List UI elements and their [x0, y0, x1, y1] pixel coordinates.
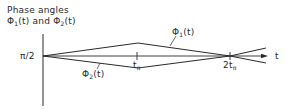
title-line2: Φ1(t) and Φ2(t): [7, 16, 76, 29]
t-axis-arrowhead: [261, 54, 268, 58]
curve1-label: Φ1(t): [172, 27, 194, 40]
tick2-label: 2tπ: [223, 60, 236, 73]
title-line1: Phase angles: [7, 5, 69, 15]
t-axis-label: t: [275, 51, 279, 61]
y-tick-label-pi-over-2: π/2: [20, 51, 35, 61]
tick1-label: tπ: [133, 60, 141, 73]
curve2-label: Φ2(t): [82, 69, 104, 82]
